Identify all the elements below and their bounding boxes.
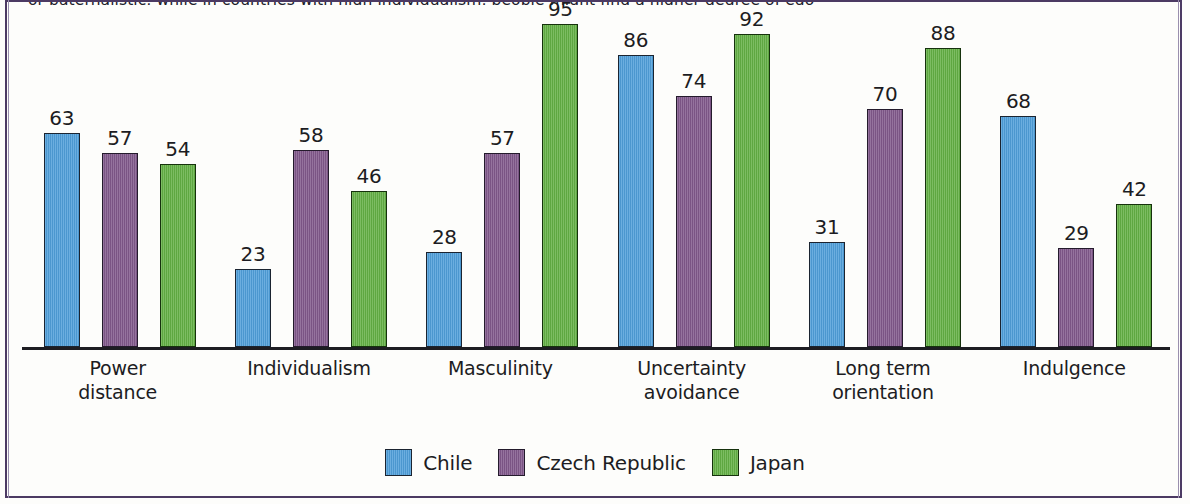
bar-value-label: 57 [468,126,536,150]
bar-czech-0 [102,153,138,347]
bar-value-label: 54 [144,137,212,161]
bar-chile-4 [809,242,845,347]
legend-swatch-chile [385,449,412,476]
bar-value-label: 68 [984,89,1052,113]
bar-japan-0 [160,164,196,347]
bar-czech-2 [484,153,520,347]
bar-value-label: 95 [526,0,594,21]
bar-value-label: 42 [1100,177,1168,201]
legend-label-japan: Japan [750,451,805,475]
chart-page: or paternalistic, while in countries wit… [0,0,1190,504]
legend-label-czech: Czech Republic [536,451,685,475]
legend-swatch-czech [498,449,525,476]
bar-value-label: 58 [277,123,345,147]
bar-value-label: 28 [410,225,478,249]
bar-czech-5 [1058,248,1094,347]
bar-japan-3 [734,34,770,347]
bar-value-label: 70 [851,82,919,106]
category-label-line: Individualism [213,356,404,380]
category-label-line: Power [22,356,213,380]
category-label-5: Indulgence [979,356,1170,380]
bar-japan-5 [1116,204,1152,347]
category-label-3: Uncertaintyavoidance [596,356,787,404]
bar-chile-1 [235,269,271,347]
category-label-line: Indulgence [979,356,1170,380]
bar-czech-1 [293,150,329,347]
bars-layer: 635754235846285795867492317088682942 [22,14,1170,347]
bar-value-label: 23 [219,242,287,266]
bar-value-label: 31 [793,215,861,239]
bar-chile-0 [44,133,80,347]
bar-value-label: 92 [718,7,786,31]
bar-value-label: 46 [335,164,403,188]
plot-area: 635754235846285795867492317088682942 [22,14,1170,348]
legend-item-chile[interactable]: Chile [385,449,472,476]
bar-japan-1 [351,191,387,347]
category-label-line: Masculinity [405,356,596,380]
bar-chile-2 [426,252,462,347]
category-label-0: Powerdistance [22,356,213,404]
category-label-line: Long term [787,356,978,380]
legend-item-czech[interactable]: Czech Republic [498,449,685,476]
category-label-line: distance [22,380,213,404]
frame-inner-line-right [1178,0,1179,498]
chart-legend: ChileCzech RepublicJapan [0,449,1190,476]
bar-value-label: 74 [660,69,728,93]
category-label-line: orientation [787,380,978,404]
legend-swatch-japan [712,449,739,476]
category-label-line: avoidance [596,380,787,404]
bar-value-label: 88 [909,21,977,45]
legend-item-japan[interactable]: Japan [712,449,805,476]
category-axis-labels: PowerdistanceIndividualismMasculinityUnc… [22,356,1170,426]
bar-japan-2 [542,24,578,347]
category-label-line: Uncertainty [596,356,787,380]
x-axis-line [22,347,1170,350]
category-label-2: Masculinity [405,356,596,380]
legend-label-chile: Chile [423,451,472,475]
bar-value-label: 29 [1042,221,1110,245]
bar-chile-5 [1000,116,1036,347]
bar-czech-4 [867,109,903,347]
category-label-4: Long termorientation [787,356,978,404]
category-label-1: Individualism [213,356,404,380]
bar-value-label: 86 [602,28,670,52]
frame-inner-line-left [8,0,9,498]
bar-czech-3 [676,96,712,347]
bar-chile-3 [618,55,654,347]
bar-japan-4 [925,48,961,347]
